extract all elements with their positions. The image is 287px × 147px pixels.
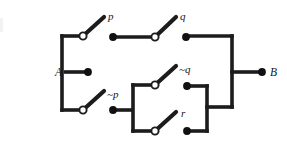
switch-q-pivot[interactable] xyxy=(151,33,158,40)
switch-r-label: r xyxy=(181,107,186,119)
switch-not-p-contact xyxy=(109,106,117,114)
switch-not-p-label: ~p xyxy=(107,88,119,100)
switch-not-q-label: ~q xyxy=(179,63,191,75)
switch-q-label: q xyxy=(180,10,186,22)
terminal-a-group: A xyxy=(54,66,92,78)
switch-r-contact xyxy=(183,127,191,135)
switch-q[interactable]: q xyxy=(151,10,190,41)
switch-p-label: p xyxy=(107,10,114,22)
switching-circuit-figure: A B p xyxy=(0,0,287,147)
switch-p-contact xyxy=(109,33,117,41)
switch-not-p[interactable]: ~p xyxy=(79,88,119,114)
terminal-b-group: B xyxy=(230,66,277,78)
switch-not-q-contact xyxy=(183,82,191,90)
switch-not-p-pivot[interactable] xyxy=(79,106,86,113)
switch-q-contact xyxy=(182,33,190,41)
switch-not-q-pivot[interactable] xyxy=(151,81,158,88)
terminal-a-dot xyxy=(84,68,92,76)
terminal-b-label: B xyxy=(270,66,277,78)
switch-r-pivot[interactable] xyxy=(151,127,158,134)
switch-r[interactable]: r xyxy=(151,107,191,135)
terminal-b-dot xyxy=(258,68,266,76)
switch-p[interactable]: p xyxy=(79,10,117,41)
switch-p-pivot[interactable] xyxy=(79,32,86,39)
circuit-diagram-canvas: A B p xyxy=(0,0,287,147)
switch-not-q[interactable]: ~q xyxy=(151,63,191,90)
